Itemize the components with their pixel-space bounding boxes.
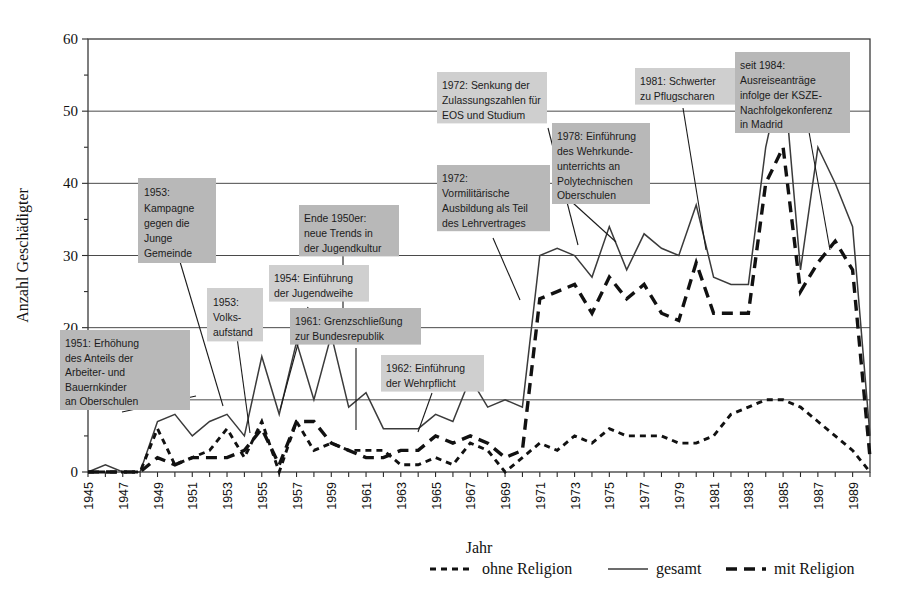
annotation-text-a1953k-line-0: 1953:: [144, 187, 170, 198]
y-tick-label-40: 40: [63, 175, 78, 191]
legend-item-gesamt[interactable]: gesamt: [608, 560, 702, 578]
annotation-text-a1972v-line-0: 1972:: [442, 173, 468, 184]
legend-item-mit-religion[interactable]: mit Religion: [726, 560, 854, 578]
annotation-text-a1954-line-1: der Jugendweihe: [274, 288, 353, 299]
x-tick-label-1959: 1959: [325, 482, 339, 510]
x-tick-label-1963: 1963: [395, 482, 409, 510]
annotation-a1962: 1962: Einführungder Wehrpflicht: [381, 355, 484, 392]
x-tick-label-1977: 1977: [638, 482, 652, 510]
x-tick-label-1989: 1989: [847, 482, 861, 510]
annotation-a1981: 1981: Schwerterzu Pflugscharen: [635, 68, 736, 105]
annotation-a1950er: Ende 1950er:neue Trends inder Jugendkult…: [299, 205, 399, 256]
leader-line-a1984: [806, 115, 830, 250]
annotation-text-a1984-line-2: infolge der KSZE-: [740, 90, 822, 101]
y-tick-label-30: 30: [63, 248, 78, 264]
annotation-text-a1953v-line-1: Volks-: [213, 312, 241, 323]
y-axis-title: Anzahl Geschädigter: [14, 188, 32, 323]
annotation-text-a1962-line-1: der Wehrpflicht: [386, 378, 456, 389]
leader-line-a1981: [683, 108, 706, 250]
annotation-text-a1984-line-3: Nachfolgekonferenz: [740, 105, 832, 116]
x-tick-label-1985: 1985: [777, 482, 791, 510]
x-tick-label-1979: 1979: [673, 482, 687, 510]
x-tick-label-1987: 1987: [812, 482, 826, 510]
x-tick-label-1983: 1983: [742, 482, 756, 510]
x-tick-label-1947: 1947: [117, 482, 131, 510]
annotation-text-a1961-line-1: zur Bundesrepublik: [295, 331, 385, 342]
annotation-text-a1984-line-1: Ausreiseanträge: [740, 75, 816, 86]
leader-line-a1978: [573, 203, 616, 242]
annotation-text-a1978-line-1: des Wehrkunde-: [557, 146, 633, 157]
annotation-text-a1981-line-1: zu Pflugscharen: [640, 91, 715, 102]
annotation-text-a1962-line-0: 1962: Einführung: [386, 363, 465, 374]
annotation-text-a1961-line-0: 1961: Grenzschließung: [295, 316, 403, 327]
x-axis-ticks: 1945194719491951195319551957195919611963…: [82, 472, 870, 510]
annotation-text-a1953k-line-2: gegen die: [144, 218, 190, 229]
annotation-text-a1984-line-0: seit 1984:: [740, 60, 785, 71]
x-tick-label-1945: 1945: [82, 482, 96, 510]
annotation-text-a1972v-line-3: des Lehrvertrages: [442, 218, 526, 229]
annotation-text-a1972s-line-0: 1972: Senkung der: [442, 80, 530, 91]
annotation-a1961: 1961: Grenzschließungzur Bundesrepublik: [290, 308, 421, 345]
annotation-text-a1951-line-3: Bauernkinder: [65, 382, 127, 393]
legend-label-mit-religion: mit Religion: [774, 560, 854, 578]
x-tick-label-1949: 1949: [152, 482, 166, 510]
x-tick-label-1981: 1981: [708, 482, 722, 510]
annotation-text-a1951-line-2: Arbeiter- und: [65, 367, 125, 378]
legend-item-ohne-religion[interactable]: ohne Religion: [430, 560, 572, 578]
annotation-text-a1981-line-0: 1981: Schwerter: [640, 76, 716, 87]
annotation-a1954: 1954: Einführungder Jugendweihe: [269, 265, 369, 302]
annotation-text-a1950er-line-1: neue Trends in: [304, 228, 373, 239]
annotation-text-a1953k-line-4: Gemeinde: [144, 248, 192, 259]
x-tick-label-1975: 1975: [603, 482, 617, 510]
y-tick-label-0: 0: [71, 464, 79, 480]
legend-label-gesamt: gesamt: [656, 560, 702, 578]
annotation-text-a1978-line-2: unterrichts an: [557, 161, 620, 172]
annotation-text-a1953k-line-3: Junge: [144, 233, 173, 244]
annotation-text-a1972s-line-1: Zulassungszahlen für: [442, 95, 541, 106]
annotation-text-a1954-line-0: 1954: Einführung: [274, 273, 353, 284]
x-tick-label-1965: 1965: [430, 482, 444, 510]
leader-line-a1972v: [493, 238, 520, 300]
x-tick-label-1967: 1967: [464, 482, 478, 510]
x-tick-label-1969: 1969: [499, 482, 513, 510]
annotation-text-a1972v-line-2: Ausbildung als Teil: [442, 203, 528, 214]
y-axis-ticks: 0102030405060: [63, 31, 88, 480]
annotation-text-a1978-line-0: 1978: Einführung: [557, 131, 636, 142]
annotation-a1972v: 1972:VormilitärischeAusbildung als Teild…: [437, 165, 550, 231]
annotation-text-a1951-line-1: des Anteils der: [65, 353, 134, 364]
annotation-text-a1953v-line-2: aufstand: [213, 327, 253, 338]
x-tick-label-1955: 1955: [256, 482, 270, 510]
series-line-ohne-religion: [88, 400, 870, 472]
annotation-text-a1951-line-0: 1951: Erhöhung: [65, 338, 139, 349]
annotation-a1951: 1951: Erhöhungdes Anteils derArbeiter- u…: [60, 330, 190, 410]
annotation-text-a1953k-line-1: Kampagne: [144, 203, 194, 214]
annotation-text-a1950er-line-0: Ende 1950er:: [304, 213, 366, 224]
x-tick-label-1957: 1957: [291, 482, 305, 510]
x-tick-label-1961: 1961: [360, 482, 374, 510]
annotation-text-a1950er-line-2: der Jugendkultur: [304, 243, 382, 254]
chart-legend: ohne Religiongesamtmit Religion: [430, 560, 854, 578]
x-tick-label-1973: 1973: [569, 482, 583, 510]
leader-line-a1953v: [236, 330, 250, 433]
x-tick-label-1951: 1951: [186, 482, 200, 510]
annotation-text-a1972v-line-1: Vormilitärische: [442, 188, 510, 199]
chart-container: 0102030405060 19451947194919511953195519…: [0, 0, 908, 605]
annotation-a1953k: 1953:Kampagnegegen dieJungeGemeinde: [138, 178, 216, 263]
y-tick-label-50: 50: [63, 103, 78, 119]
annotation-text-a1978-line-3: Polytechnischen: [557, 176, 633, 187]
annotation-a1972s: 1972: Senkung derZulassungszahlen fürEOS…: [437, 72, 547, 123]
annotation-layer: 1951: Erhöhungdes Anteils derArbeiter- u…: [60, 52, 850, 410]
line-chart: 0102030405060 19451947194919511953195519…: [0, 0, 908, 605]
x-axis-title: Jahr: [466, 539, 493, 556]
annotation-a1984: seit 1984:Ausreiseanträgeinfolge der KSZ…: [735, 52, 850, 133]
y-tick-label-60: 60: [63, 31, 78, 47]
annotation-text-a1978-line-4: Oberschulen: [557, 190, 616, 201]
annotation-a1953v: 1953:Volks-aufstand: [207, 288, 263, 341]
annotation-a1978: 1978: Einführungdes Wehrkunde-unterricht…: [552, 123, 650, 204]
x-tick-label-1953: 1953: [221, 482, 235, 510]
annotation-text-a1984-line-4: in Madrid: [740, 119, 783, 130]
legend-label-ohne-religion: ohne Religion: [482, 560, 572, 578]
annotation-text-a1972s-line-2: EOS und Studium: [442, 110, 525, 121]
leader-line-a1962: [418, 393, 432, 432]
x-tick-label-1971: 1971: [534, 482, 548, 510]
